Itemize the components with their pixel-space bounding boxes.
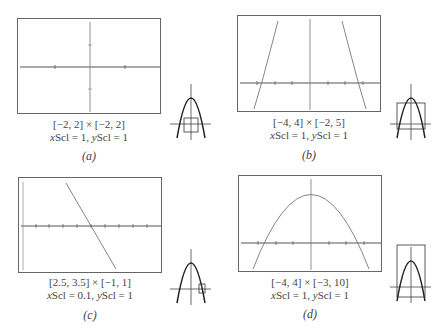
window-caption-a: [−2, 2] × [−2, 2] xScl = 1, yScl = 1 [17,118,161,144]
panel-label-d: (d) [238,307,382,322]
panel-label-a: (a) [17,149,161,164]
curve-left-branch [254,21,278,109]
calculator-screen-d [238,175,382,272]
window-range-b: [−4, 4] × [−2, 5] [237,116,381,129]
thumbnail-parabola-c [165,245,215,307]
thumbnail-parabola-b [385,80,435,142]
curve-right-branch [342,21,366,109]
window-range-c: [2.5, 3.5] × [−1, 1] [18,276,162,289]
window-caption-c: [2.5, 3.5] × [−1, 1] xScl = 0.1, yScl = … [18,276,162,302]
graph-b [238,16,382,113]
graph-a [18,19,162,115]
panel-label-c: (c) [18,308,162,323]
calculator-screen-c [18,177,162,273]
scale-text-a: xScl = 1, yScl = 1 [17,131,161,144]
panel-label-b: (b) [237,148,381,163]
scale-text-d: xScl = 1, yScl = 1 [238,289,382,302]
graph-c [19,178,163,274]
calculator-screen-b [237,15,381,112]
window-range-a: [−2, 2] × [−2, 2] [17,118,161,131]
graph-d [239,176,383,273]
scale-text-c: xScl = 0.1, yScl = 1 [18,289,162,302]
window-range-d: [−4, 4] × [−3, 10] [238,276,382,289]
window-caption-d: [−4, 4] × [−3, 10] xScl = 1, yScl = 1 [238,276,382,302]
calculator-screen-a [17,18,161,114]
thumbnail-parabola-a [165,80,215,142]
window-caption-b: [−4, 4] × [−2, 5] xScl = 1, yScl = 1 [237,116,381,142]
thumbnail-parabola-d [385,243,435,305]
scale-text-b: xScl = 1, yScl = 1 [237,129,381,142]
